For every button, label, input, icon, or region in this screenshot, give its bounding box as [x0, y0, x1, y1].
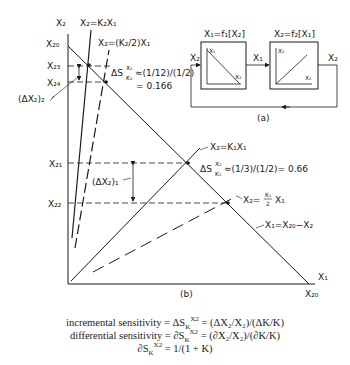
svg-text:K₁: K₁: [215, 170, 222, 177]
svg-text:ΔS: ΔS: [200, 164, 212, 174]
y-tick-x21: X₂₁: [49, 159, 63, 169]
svg-text:K₂: K₂: [126, 74, 133, 81]
svg-text:K₁: K₁: [265, 191, 272, 198]
panel-a-block-diagram: X₁=f₁[X₂] X₁ X₂ X₂=f₂[X₁] X₂ X₁ X₂ X₁ X₂…: [190, 29, 338, 123]
sensitivity-k2-annotation: ΔS X₂ K₂ ≈(1/12)/(1/2) = 0.166: [111, 64, 194, 91]
k1-line: [71, 148, 200, 281]
intersection-k2-half: [104, 80, 108, 84]
sensitivity-k1-annotation: ΔS X₂ K₁ ≈(1/3)/(1/2)= 0.66: [200, 160, 308, 177]
k2-half-line-label: X₂=(K₂/2)X₁: [98, 38, 151, 48]
k1-half-leader: [237, 196, 242, 199]
svg-text:X₁: X₁: [275, 195, 285, 205]
svg-text:X₂: X₂: [215, 160, 222, 167]
x-tick-x20: X₂₀: [305, 289, 319, 299]
svg-text:2: 2: [266, 200, 270, 207]
signal-between-label: X₁: [253, 53, 263, 63]
svg-text:≈(1/12)/(1/2): ≈(1/12)/(1/2): [135, 68, 194, 78]
svg-text:X₂=: X₂=: [243, 195, 260, 205]
x-axis-label: X₁: [318, 272, 328, 282]
delta1-leader: [123, 178, 131, 180]
svg-text:ΔS: ΔS: [111, 68, 123, 78]
svg-text:≈(1/3)/(1/2)= 0.66: ≈(1/3)/(1/2)= 0.66: [224, 164, 308, 174]
y-axis-label: X₂: [56, 18, 66, 28]
intersection-k2: [87, 63, 91, 67]
block-f2-y-label: X₂: [278, 47, 285, 54]
block-f2-title: X₂=f₂[X₁]: [274, 29, 315, 39]
block-f2-x-label: X₁: [305, 74, 312, 81]
signal-output-label: X₂: [328, 53, 338, 63]
k2-line-label: X₂=K₂X₁: [80, 18, 117, 28]
svg-text:= 0.166: = 0.166: [136, 81, 172, 91]
sensitivity-diagram: X₂ X₁ X₂₀ X₂₀ X₂₃ X₂₄ X₂₁ X₂₂ X₂=K₂X₁ X₂…: [0, 0, 350, 365]
block-f2-curve: [276, 55, 307, 84]
y-tick-x20: X₂₀: [46, 39, 60, 49]
block-f1: [201, 42, 246, 89]
block-f1-title: X₁=f₁[X₂]: [204, 29, 245, 39]
intersection-k1-half: [226, 201, 230, 205]
panel-a-caption: (a): [257, 113, 270, 123]
panel-b-graph: X₂ X₁ X₂₀ X₂₀ X₂₃ X₂₄ X₂₁ X₂₂ X₂=K₂X₁ X₂…: [18, 18, 328, 299]
k1-leader: [200, 147, 208, 150]
k1-half-line: [93, 196, 237, 272]
intersection-k1: [186, 161, 190, 165]
load-line-label: X₁=X₂₀−X₂: [265, 220, 313, 230]
load-leader: [256, 225, 264, 228]
panel-b-caption: (b): [180, 289, 193, 299]
k2-line: [72, 30, 91, 238]
block-f1-y-label: X₁: [209, 47, 216, 54]
equation-result: ∂SKX2 = 1/(1 + K): [0, 339, 350, 360]
y-tick-x22: X₂₂: [48, 199, 62, 209]
delta2-label: (ΔX₂)₂: [18, 94, 45, 104]
block-f1-x-label: X₂: [235, 73, 242, 80]
svg-text:X₂: X₂: [126, 64, 133, 71]
k1-half-line-label: X₂= K₁ 2 X₁: [243, 191, 285, 207]
y-tick-x24: X₂₄: [47, 78, 61, 88]
feedback-loop: [191, 65, 337, 107]
signal-input-label: X₂: [190, 53, 200, 63]
y-tick-x23: X₂₃: [47, 61, 61, 71]
delta1-label: (ΔX₂)₁: [92, 177, 119, 187]
k1-line-label: X₂=K₁X₁: [210, 142, 247, 152]
